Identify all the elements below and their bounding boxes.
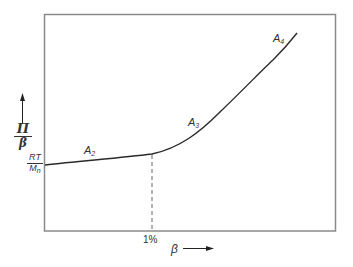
x-tick-label: 1% xyxy=(143,234,157,245)
intercept-den-sub: n xyxy=(37,167,41,174)
region-a4-sub: 4 xyxy=(280,38,284,45)
curve xyxy=(45,33,297,165)
diagram-canvas xyxy=(0,0,353,267)
x-arrowhead-icon xyxy=(206,246,214,251)
y-label-numerator: Π xyxy=(14,122,32,137)
intercept-label: RT Mn xyxy=(27,153,43,175)
x-axis-label: β xyxy=(171,243,178,255)
region-a2-sub: 2 xyxy=(91,150,95,157)
region-label-a4: A4 xyxy=(273,33,284,45)
region-label-a3: A3 xyxy=(188,117,199,129)
intercept-denominator: Mn xyxy=(27,164,43,175)
intercept-den-base: M xyxy=(29,163,37,173)
y-arrowhead-icon xyxy=(20,93,25,101)
region-a3-sub: 3 xyxy=(195,122,199,129)
y-label-denominator: β xyxy=(14,137,32,150)
y-axis-label: Π β xyxy=(14,122,32,150)
region-label-a2: A2 xyxy=(84,145,95,157)
